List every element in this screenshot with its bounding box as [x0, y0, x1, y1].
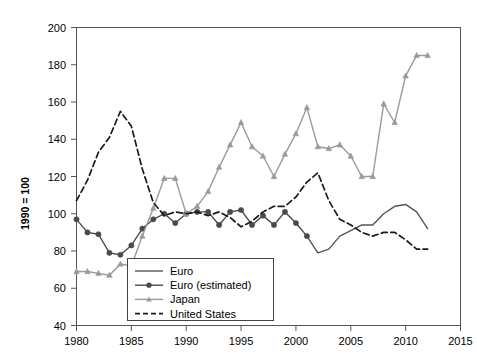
legend-label: Japan	[170, 293, 200, 305]
chart-container: 406080100120140160180200 198019851990199…	[0, 0, 477, 362]
y-tick-label: 40	[54, 320, 66, 332]
y-tick-label: 100	[48, 208, 66, 220]
y-tick-label: 140	[48, 133, 66, 145]
y-tick-label: 160	[48, 96, 66, 108]
data-point-marker	[206, 209, 211, 214]
data-point-marker	[74, 217, 79, 222]
x-tick-label: 1985	[119, 335, 143, 347]
data-point-marker	[217, 222, 222, 227]
legend-label: United States	[170, 308, 237, 320]
x-tick-label: 2000	[284, 335, 308, 347]
data-point-marker	[238, 207, 243, 212]
chart-legend: EuroEuro (estimated)JapanUnited States	[128, 259, 274, 321]
legend-swatch-marker	[146, 283, 151, 288]
data-point-marker	[96, 232, 101, 237]
line-chart-plot: 406080100120140160180200 198019851990199…	[0, 0, 477, 362]
x-tick-label: 2015	[448, 335, 472, 347]
x-tick-label: 2010	[393, 335, 417, 347]
y-tick-label: 180	[48, 59, 66, 71]
data-point-marker	[282, 209, 287, 214]
x-tick-label: 1980	[64, 335, 88, 347]
data-point-marker	[129, 243, 134, 248]
y-tick-label: 200	[48, 22, 66, 34]
data-point-marker	[85, 230, 90, 235]
legend-label: Euro	[170, 265, 193, 277]
x-tick-label: 1995	[229, 335, 253, 347]
data-point-marker	[228, 209, 233, 214]
data-point-marker	[304, 234, 309, 239]
y-tick-label: 60	[54, 282, 66, 294]
data-point-marker	[173, 220, 178, 225]
y-tick-label: 120	[48, 171, 66, 183]
data-point-marker	[151, 217, 156, 222]
data-point-marker	[107, 250, 112, 255]
data-point-marker	[249, 222, 254, 227]
legend-label: Euro (estimated)	[170, 279, 251, 291]
x-tick-label: 1990	[174, 335, 198, 347]
y-tick-label: 80	[54, 245, 66, 257]
data-point-marker	[293, 220, 298, 225]
x-tick-label: 2005	[339, 335, 363, 347]
data-point-marker	[118, 252, 123, 257]
data-point-marker	[271, 222, 276, 227]
y-axis-title: 1990 = 100	[19, 177, 31, 230]
